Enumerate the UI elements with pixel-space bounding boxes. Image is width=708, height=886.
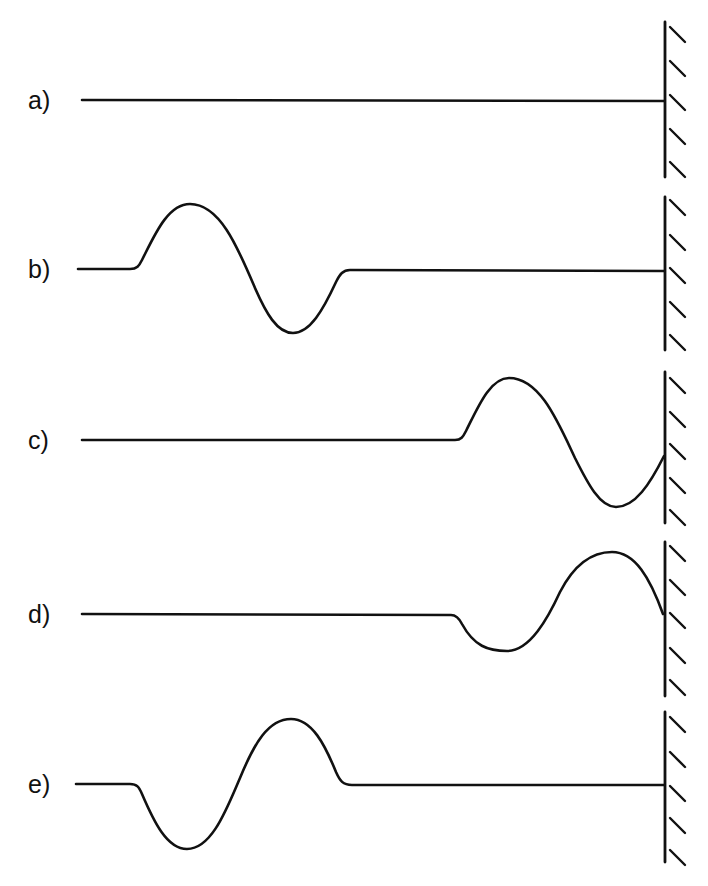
string-e bbox=[76, 719, 664, 849]
panel-e: e) bbox=[28, 712, 685, 865]
panel-c: c) bbox=[28, 372, 685, 525]
fixed-wall-e bbox=[665, 712, 685, 865]
panel-label-d: d) bbox=[28, 600, 50, 628]
fixed-wall-d bbox=[665, 542, 685, 696]
fixed-wall-a bbox=[665, 22, 685, 177]
fixed-wall-b bbox=[665, 197, 685, 350]
string-b bbox=[78, 204, 664, 333]
string-c bbox=[82, 378, 664, 507]
panel-label-a: a) bbox=[28, 86, 50, 114]
fixed-wall-c bbox=[665, 372, 685, 525]
string-a bbox=[82, 100, 664, 101]
panel-a: a) bbox=[28, 22, 685, 177]
panel-b: b) bbox=[28, 197, 685, 350]
panel-label-c: c) bbox=[28, 426, 49, 454]
panel-d: d) bbox=[28, 542, 685, 696]
panel-label-e: e) bbox=[28, 770, 50, 798]
panel-label-b: b) bbox=[28, 255, 50, 283]
reflection-diagram: a) b) c) bbox=[0, 0, 708, 886]
string-d bbox=[82, 552, 663, 651]
